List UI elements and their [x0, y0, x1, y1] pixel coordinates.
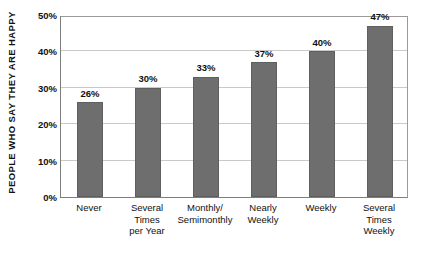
x-axis-category-label: SeveralTimesWeekly	[350, 202, 408, 237]
x-axis-category-label: Weekly	[292, 202, 350, 214]
x-axis-category-label: Monthly/Semimonthly	[176, 202, 234, 225]
x-axis-category-label: SeveralTimesper Year	[118, 202, 176, 237]
bar	[77, 102, 103, 197]
bar-value-label: 26%	[80, 89, 99, 99]
x-axis-category-labels: NeverSeveralTimesper YearMonthly/Semimon…	[60, 202, 408, 260]
bar-value-label: 37%	[254, 49, 273, 59]
bar-group: 47%	[351, 17, 409, 197]
x-axis-category-line: Several	[350, 202, 408, 214]
y-axis-tick: 20%	[24, 120, 57, 130]
bar-group: 30%	[119, 17, 177, 197]
y-axis-tick-labels: 0%10%20%30%40%50%	[24, 0, 57, 210]
y-axis-tick: 10%	[24, 157, 57, 167]
bar-value-label: 40%	[312, 38, 331, 48]
bar	[135, 88, 161, 197]
bars-layer: 26%30%33%37%40%47%	[61, 17, 407, 197]
bar-value-label: 47%	[370, 12, 389, 22]
bar	[251, 62, 277, 197]
x-axis-category-line: Nearly	[234, 202, 292, 214]
plot-area: 26%30%33%37%40%47%	[60, 16, 408, 198]
x-axis-category-label: Never	[60, 202, 118, 214]
bar-group: 33%	[177, 17, 235, 197]
x-axis-category-line: Monthly/	[176, 202, 234, 214]
bar-value-label: 33%	[196, 63, 215, 73]
bar-group: 26%	[61, 17, 119, 197]
y-axis-title-text: PEOPLE WHO SAY THEY ARE HAPPY	[6, 11, 17, 194]
x-axis-category-line: Never	[60, 202, 118, 214]
bar-group: 40%	[293, 17, 351, 197]
x-axis-category-line: Times	[118, 214, 176, 226]
x-axis-category-line: Several	[118, 202, 176, 214]
x-axis-category-line: Weekly	[350, 225, 408, 237]
x-axis-category-line: Times	[350, 214, 408, 226]
bar	[367, 26, 393, 197]
bar	[193, 77, 219, 197]
y-axis-tick: 30%	[24, 84, 57, 94]
x-axis-category-line: Weekly	[292, 202, 350, 214]
bar-value-label: 30%	[138, 74, 157, 84]
y-axis-title: PEOPLE WHO SAY THEY ARE HAPPY	[0, 0, 22, 205]
x-axis-category-line: per Year	[118, 225, 176, 237]
y-axis-tick: 40%	[24, 48, 57, 58]
x-axis-category-line: Weekly	[234, 214, 292, 226]
bar-group: 37%	[235, 17, 293, 197]
y-axis-tick: 50%	[24, 11, 57, 21]
x-axis-category-line: Semimonthly	[176, 214, 234, 226]
x-axis-category-label: NearlyWeekly	[234, 202, 292, 225]
y-axis-tick: 0%	[24, 193, 57, 203]
bar-chart: PEOPLE WHO SAY THEY ARE HAPPY 0%10%20%30…	[0, 0, 430, 260]
bar	[309, 51, 335, 197]
